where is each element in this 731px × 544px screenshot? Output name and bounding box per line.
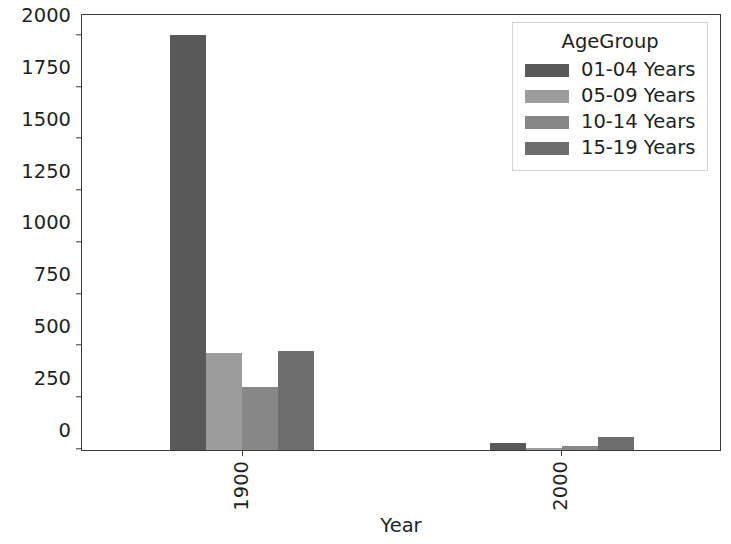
y-tick-label: 750 bbox=[34, 265, 82, 285]
y-tick-mark bbox=[76, 397, 82, 398]
legend-item-label: 01-04 Years bbox=[581, 60, 695, 80]
x-tick-label: 2000 bbox=[551, 461, 571, 511]
legend-item-label: 15-19 Years bbox=[581, 138, 695, 158]
y-tick-mark bbox=[76, 241, 82, 242]
legend-swatch-icon bbox=[525, 142, 569, 155]
bar bbox=[170, 35, 206, 450]
y-tick-mark bbox=[76, 293, 82, 294]
y-tick-label: 1500 bbox=[21, 110, 82, 130]
bar bbox=[242, 387, 278, 450]
legend-swatch-icon bbox=[525, 90, 569, 103]
y-tick-label: 1750 bbox=[21, 58, 82, 78]
legend-item[interactable]: 01-04 Years bbox=[525, 57, 695, 83]
x-tick-label: 1900 bbox=[232, 461, 252, 511]
y-tick-mark bbox=[76, 86, 82, 87]
bar-chart-figure: 025050075010001250150017502000 19002000 … bbox=[0, 0, 731, 544]
legend-items: 01-04 Years05-09 Years10-14 Years15-19 Y… bbox=[525, 57, 695, 161]
y-tick-label: 250 bbox=[34, 369, 82, 389]
y-tick-label: 1250 bbox=[21, 162, 82, 182]
bar bbox=[562, 446, 598, 450]
legend-title: AgeGroup bbox=[525, 30, 695, 53]
y-tick-mark bbox=[76, 345, 82, 346]
x-axis-label: Year bbox=[81, 516, 721, 536]
bar bbox=[206, 353, 242, 450]
bar bbox=[598, 437, 634, 450]
y-tick-mark bbox=[76, 138, 82, 139]
legend-item[interactable]: 10-14 Years bbox=[525, 109, 695, 135]
y-tick-mark bbox=[76, 189, 82, 190]
legend-item[interactable]: 05-09 Years bbox=[525, 83, 695, 109]
bar bbox=[490, 443, 526, 450]
y-tick-label: 500 bbox=[34, 317, 82, 337]
bar bbox=[278, 351, 314, 450]
legend: AgeGroup 01-04 Years05-09 Years10-14 Yea… bbox=[512, 22, 708, 171]
y-tick-mark bbox=[76, 34, 82, 35]
y-tick-label: 0 bbox=[59, 421, 82, 441]
legend-item-label: 05-09 Years bbox=[581, 86, 695, 106]
legend-swatch-icon bbox=[525, 116, 569, 129]
bar bbox=[526, 448, 562, 450]
x-tick-mark bbox=[561, 450, 562, 456]
y-tick-label: 1000 bbox=[21, 214, 82, 234]
y-tick-mark bbox=[76, 448, 82, 449]
legend-item-label: 10-14 Years bbox=[581, 112, 695, 132]
legend-swatch-icon bbox=[525, 64, 569, 77]
y-tick-label: 2000 bbox=[21, 6, 82, 26]
x-tick-mark bbox=[242, 450, 243, 456]
legend-item[interactable]: 15-19 Years bbox=[525, 135, 695, 161]
